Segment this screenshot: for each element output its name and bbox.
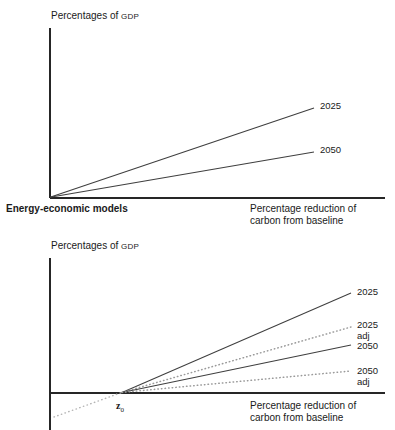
top-panel-line-2050: [50, 152, 314, 197]
top-panel-y-axis-label-prefix: Percentages of: [51, 10, 121, 21]
top-panel-series-label-2025: 2025: [320, 101, 341, 112]
bottom-panel-series-label-2050: 2050: [357, 341, 378, 352]
bottom-panel-line-2025: [122, 293, 351, 392]
bottom-panel-series-label-2025-adj-line2: adj: [357, 330, 370, 341]
bottom-panel-line-adj-extension: [54, 392, 122, 417]
bottom-panel-x-axis-label: Percentage reduction ofcarbon from basel…: [250, 400, 356, 423]
bottom-panel-threshold-subscript: 0: [120, 406, 124, 414]
top-panel-x-axis-label: Percentage reduction ofcarbon from basel…: [250, 203, 356, 226]
bottom-panel-series-label-2050-adj: 2050adj: [357, 366, 378, 387]
bottom-panel-x-axis-label-line2: carbon from baseline: [250, 412, 343, 423]
bottom-panel-x-axis-label-line1: Percentage reduction of: [250, 400, 356, 411]
top-panel-line-2025: [50, 108, 314, 197]
bottom-panel-y-axis-label: Percentages of GDP: [51, 240, 139, 253]
top-panel-y-axis-label-suffix: GDP: [121, 12, 139, 21]
bottom-panel-y-axis-label-prefix: Percentages of: [51, 240, 121, 251]
bottom-panel-y-axis-label-suffix: GDP: [121, 242, 139, 251]
top-panel-series-label-2050: 2050: [320, 145, 341, 156]
figure-energy-economic-models: Percentages of GDP 2025 2050 Percentage …: [0, 0, 395, 430]
top-panel-series: [50, 108, 314, 197]
bottom-panel-series-label-2050-adj-line1: 2050: [357, 365, 378, 376]
bottom-panel-line-2025-adj: [122, 327, 351, 392]
top-panel-x-axis-label-line1: Percentage reduction of: [250, 203, 356, 214]
bottom-panel-series-label-2025-adj-line1: 2025: [357, 319, 378, 330]
figure-caption: Energy-economic models: [6, 203, 128, 215]
bottom-panel-series-label-2050-adj-line2: adj: [357, 376, 370, 387]
bottom-panel-series-label-2025: 2025: [357, 287, 378, 298]
top-panel-x-axis-label-line2: carbon from baseline: [250, 215, 343, 226]
bottom-panel-line-2050-adj: [122, 371, 351, 392]
top-panel-y-axis-label: Percentages of GDP: [51, 10, 139, 23]
bottom-panel-threshold-label: z0: [116, 400, 124, 417]
bottom-panel-series-label-2025-adj: 2025adj: [357, 320, 378, 341]
top-panel-axes: [50, 28, 385, 198]
bottom-panel-series: [54, 293, 351, 417]
bottom-panel-line-2050: [122, 345, 351, 392]
